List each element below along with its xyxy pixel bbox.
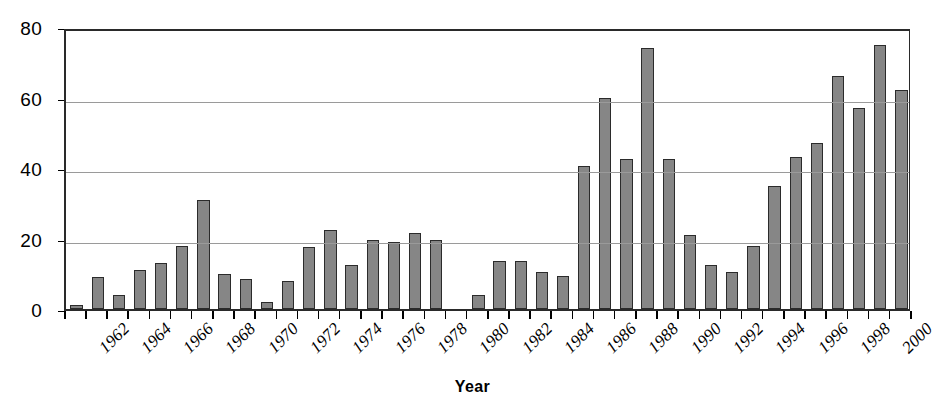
bar-1995 bbox=[768, 186, 780, 309]
x-tick-36 bbox=[825, 311, 827, 319]
x-tick-32 bbox=[741, 311, 743, 319]
y-tick-label-0: 0 bbox=[31, 300, 42, 322]
x-tick-33 bbox=[762, 311, 764, 319]
y-axis: 020406080 bbox=[0, 0, 52, 409]
x-tick-5 bbox=[170, 311, 172, 319]
x-tick-15 bbox=[381, 311, 383, 319]
x-tick-label-1968: 1968 bbox=[222, 319, 261, 358]
bar-1969 bbox=[218, 274, 230, 309]
x-tick-40 bbox=[910, 311, 912, 319]
bar-1998 bbox=[832, 76, 844, 309]
bar-1986 bbox=[578, 166, 590, 309]
plot-area bbox=[64, 29, 910, 311]
x-tick-10 bbox=[276, 311, 278, 319]
x-tick-14 bbox=[360, 311, 362, 319]
x-tick-label-1964: 1964 bbox=[137, 319, 176, 358]
bar-1990 bbox=[663, 159, 675, 309]
x-tick-label-1996: 1996 bbox=[814, 319, 853, 358]
bar-chart: 020406080 196219641966196819701972197419… bbox=[0, 0, 945, 409]
y-tick-label-20: 20 bbox=[20, 230, 42, 252]
bar-1970 bbox=[240, 279, 252, 309]
bar-1976 bbox=[367, 240, 379, 309]
x-tick-label-1984: 1984 bbox=[560, 319, 599, 358]
gridline-40 bbox=[66, 172, 909, 173]
x-tick-6 bbox=[191, 311, 193, 319]
x-axis-ticks bbox=[64, 311, 910, 319]
bar-1962 bbox=[70, 305, 82, 309]
x-tick-label-1998: 1998 bbox=[856, 319, 895, 358]
x-tick-23 bbox=[550, 311, 552, 319]
bar-1996 bbox=[790, 157, 802, 309]
bar-1965 bbox=[134, 270, 146, 309]
x-tick-34 bbox=[783, 311, 785, 319]
bar-2000 bbox=[874, 45, 886, 309]
bar-1988 bbox=[620, 159, 632, 309]
x-tick-8 bbox=[233, 311, 235, 319]
y-tick-label-40: 40 bbox=[20, 159, 42, 181]
x-tick-label-2000: 2000 bbox=[898, 319, 937, 358]
x-tick-27 bbox=[635, 311, 637, 319]
bar-1978 bbox=[409, 233, 421, 309]
x-axis-labels: 1962196419661968197019721974197619781980… bbox=[64, 319, 910, 369]
x-tick-22 bbox=[529, 311, 531, 319]
x-tick-13 bbox=[339, 311, 341, 319]
bar-1984 bbox=[536, 272, 548, 309]
bar-1983 bbox=[515, 261, 527, 309]
gridline-20 bbox=[66, 243, 909, 244]
x-tick-label-1988: 1988 bbox=[645, 319, 684, 358]
x-tick-label-1970: 1970 bbox=[264, 319, 303, 358]
x-tick-label-1966: 1966 bbox=[179, 319, 218, 358]
bar-1964 bbox=[113, 295, 125, 309]
bar-1999 bbox=[853, 108, 865, 309]
bar-1979 bbox=[430, 240, 442, 309]
x-tick-25 bbox=[593, 311, 595, 319]
bar-1993 bbox=[726, 272, 738, 309]
x-tick-26 bbox=[614, 311, 616, 319]
x-tick-1 bbox=[85, 311, 87, 319]
x-tick-label-1982: 1982 bbox=[518, 319, 557, 358]
bar-1987 bbox=[599, 98, 611, 310]
x-tick-label-1994: 1994 bbox=[772, 319, 811, 358]
x-tick-4 bbox=[149, 311, 151, 319]
x-tick-11 bbox=[297, 311, 299, 319]
x-tick-21 bbox=[508, 311, 510, 319]
x-tick-3 bbox=[127, 311, 129, 319]
x-tick-label-1974: 1974 bbox=[349, 319, 388, 358]
gridline-60 bbox=[66, 102, 909, 103]
x-tick-28 bbox=[656, 311, 658, 319]
bar-1968 bbox=[197, 200, 209, 309]
x-tick-2 bbox=[106, 311, 108, 319]
bar-1992 bbox=[705, 265, 717, 309]
x-tick-label-1972: 1972 bbox=[306, 319, 345, 358]
x-tick-24 bbox=[572, 311, 574, 319]
bar-1982 bbox=[493, 261, 505, 309]
bar-1975 bbox=[345, 265, 357, 309]
x-tick-label-1992: 1992 bbox=[729, 319, 768, 358]
bar-1971 bbox=[261, 302, 273, 309]
bar-1997 bbox=[811, 143, 823, 309]
x-axis-title: Year bbox=[0, 378, 945, 396]
x-tick-12 bbox=[318, 311, 320, 319]
bar-1977 bbox=[388, 242, 400, 309]
x-tick-7 bbox=[212, 311, 214, 319]
bar-1963 bbox=[92, 277, 104, 309]
x-tick-35 bbox=[804, 311, 806, 319]
x-tick-18 bbox=[445, 311, 447, 319]
bar-1973 bbox=[303, 247, 315, 309]
x-tick-label-1980: 1980 bbox=[475, 319, 514, 358]
x-tick-label-1976: 1976 bbox=[391, 319, 430, 358]
bar-1994 bbox=[747, 246, 759, 309]
x-tick-37 bbox=[847, 311, 849, 319]
bar-1989 bbox=[641, 48, 653, 309]
y-tick-label-80: 80 bbox=[20, 18, 42, 40]
y-tick-label-60: 60 bbox=[20, 89, 42, 111]
bar-2001 bbox=[895, 90, 907, 309]
x-tick-17 bbox=[424, 311, 426, 319]
x-tick-29 bbox=[677, 311, 679, 319]
bar-1981 bbox=[472, 295, 484, 309]
bar-1967 bbox=[176, 246, 188, 309]
x-tick-39 bbox=[889, 311, 891, 319]
x-tick-20 bbox=[487, 311, 489, 319]
x-tick-label-1978: 1978 bbox=[433, 319, 472, 358]
bar-1966 bbox=[155, 263, 167, 309]
